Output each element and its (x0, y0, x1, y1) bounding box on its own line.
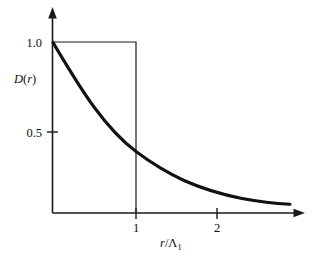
y-axis-arrowhead-icon (48, 7, 57, 19)
x-axis (53, 209, 306, 218)
y-tick-label-0-5: 0.5 (26, 126, 42, 140)
exponential-decay-curve (53, 43, 290, 205)
x-axis-arrowhead-icon (294, 209, 306, 218)
y-axis (48, 7, 57, 213)
y-tick-label-1-0: 1.0 (26, 36, 42, 50)
chart-figure: 1.0 0.5 1 2 D(r) r/Λ1 (0, 0, 313, 259)
x-tick-label-1: 1 (133, 221, 139, 235)
y-axis-label-func: D (13, 72, 23, 86)
x-tick-label-2: 2 (214, 221, 220, 235)
chart-svg: 1.0 0.5 1 2 D(r) r/Λ1 (0, 0, 313, 259)
decay-curve-path (53, 43, 290, 205)
y-axis-label: D(r) (13, 72, 36, 86)
step-function-path (53, 42, 137, 213)
x-axis-label-denominator: Λ (168, 236, 177, 250)
x-axis-label: r/Λ1 (160, 236, 182, 252)
step-function-box (53, 42, 137, 213)
x-axis-label-subscript: 1 (177, 242, 181, 252)
y-axis-label-close: ) (32, 72, 36, 86)
